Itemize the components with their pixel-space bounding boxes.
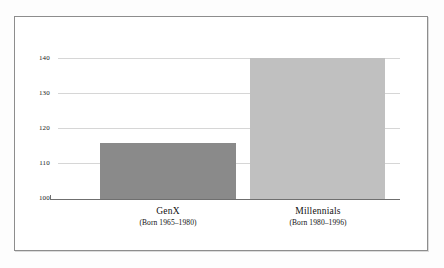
x-label-millennials-name: Millennials bbox=[238, 205, 398, 217]
x-label-genx: GenX (Born 1965–1980) bbox=[88, 205, 248, 228]
x-axis-line bbox=[50, 199, 400, 200]
y-axis-tick-labels: 140 130 120 110 100 bbox=[14, 0, 50, 268]
plot-area bbox=[58, 50, 400, 199]
y-tick-140: 140 bbox=[20, 54, 50, 62]
y-tick-130: 130 bbox=[20, 89, 50, 97]
x-label-genx-years: (Born 1965–1980) bbox=[88, 217, 248, 228]
y-tick-110: 110 bbox=[20, 159, 50, 167]
bar-millennials[interactable] bbox=[250, 58, 385, 199]
x-label-millennials: Millennials (Born 1980–1996) bbox=[238, 205, 398, 228]
y-axis-origin-tick bbox=[50, 195, 51, 200]
x-label-millennials-years: (Born 1980–1996) bbox=[238, 217, 398, 228]
y-tick-120: 120 bbox=[20, 124, 50, 132]
y-tick-100: 100 bbox=[20, 194, 50, 202]
x-label-genx-name: GenX bbox=[88, 205, 248, 217]
bar-genx[interactable] bbox=[100, 143, 236, 199]
chart-figure: 140 130 120 110 100 Overall Customer Exp… bbox=[0, 0, 444, 268]
